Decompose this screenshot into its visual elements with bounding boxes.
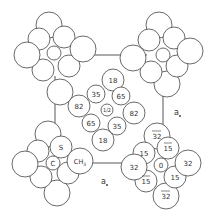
molecule-top-left: [14, 12, 96, 105]
sulfur-label: S: [59, 144, 64, 152]
atom-label: 35: [92, 91, 101, 99]
crystal-structure-diagram: 18 35 65 82 82 65 35 18 1/2 S C CH3 3: [0, 0, 215, 217]
molecule-center: 18 35 65 82 82 65 35 18 1/2: [68, 69, 145, 151]
molecule-bottom-right: 32 15 15 32 32 15 15 32 0: [121, 123, 201, 209]
atom-label: 32: [162, 193, 171, 201]
atom-label: 82: [75, 103, 84, 111]
atom-label: 32: [130, 164, 139, 172]
atom-label: 65: [87, 120, 96, 128]
atom-label: 18: [99, 137, 108, 145]
molecule-top-right: [120, 12, 203, 97]
atom-label: 15: [142, 178, 151, 186]
molecule-bottom-left: S C CH3: [12, 121, 93, 206]
atom-label: 18: [109, 77, 118, 85]
atom-label: 15: [171, 174, 180, 182]
atom-label: 15: [140, 150, 149, 158]
atom-label: 65: [117, 93, 126, 101]
atom-label: 32: [153, 133, 162, 141]
carbon-label: C: [51, 160, 56, 168]
oxygen-label: 0: [159, 162, 163, 170]
atom-label: 82: [130, 110, 139, 118]
atom-label: 35: [113, 123, 122, 131]
axis-label-a-bottom: a: [101, 177, 106, 186]
atom-label: 32: [184, 160, 193, 168]
axis-label-a-right: a: [174, 108, 179, 117]
atom-label: 15: [164, 145, 173, 153]
center-label: 1/2: [103, 107, 111, 113]
